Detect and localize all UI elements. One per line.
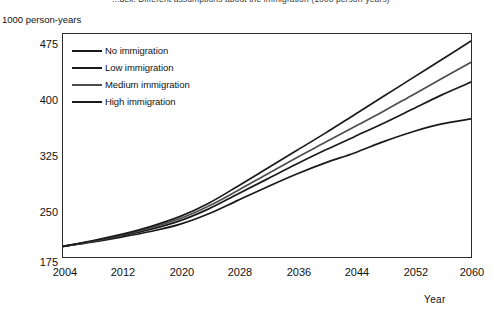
legend-label-low-immigration: Low immigration	[105, 62, 173, 73]
x-tick-label: 2020	[159, 266, 205, 279]
legend-swatch-high-immigration	[72, 101, 102, 103]
chart-top-title: ...dex. Different assumptions about the …	[112, 0, 494, 6]
series-line	[63, 119, 471, 246]
legend-label-no-immigration: No immigration	[105, 45, 168, 56]
x-tick-label: 2004	[42, 266, 88, 279]
legend-swatch-no-immigration	[72, 50, 102, 52]
x-tick-label: 2052	[393, 266, 439, 279]
x-tick-label: 2036	[276, 266, 322, 279]
y-tick-label: 475	[2, 39, 58, 50]
y-tick-label: 250	[2, 207, 58, 218]
x-tick-label: 2060	[449, 266, 494, 279]
y-tick-label: 325	[2, 151, 58, 162]
y-tick-label: 400	[2, 95, 58, 106]
legend-label-medium-immigration: Medium immigration	[105, 79, 190, 90]
chart-legend: No immigration Low immigration Medium im…	[72, 42, 222, 110]
legend-swatch-medium-immigration	[72, 84, 102, 86]
x-axis-title: Year	[424, 294, 446, 305]
x-tick-label: 2012	[100, 266, 146, 279]
legend-item-low-immigration: Low immigration	[72, 59, 222, 76]
x-tick-label: 2028	[217, 266, 263, 279]
x-axis-labels: 2004 2012 2020 2028 2036 2044 2052 2060	[62, 266, 472, 282]
legend-item-high-immigration: High immigration	[72, 93, 222, 110]
legend-item-medium-immigration: Medium immigration	[72, 76, 222, 93]
legend-label-high-immigration: High immigration	[105, 96, 175, 107]
chart-figure: ...dex. Different assumptions about the …	[0, 0, 494, 315]
legend-swatch-low-immigration	[72, 67, 102, 69]
x-tick-label: 2044	[334, 266, 380, 279]
legend-item-no-immigration: No immigration	[72, 42, 222, 59]
